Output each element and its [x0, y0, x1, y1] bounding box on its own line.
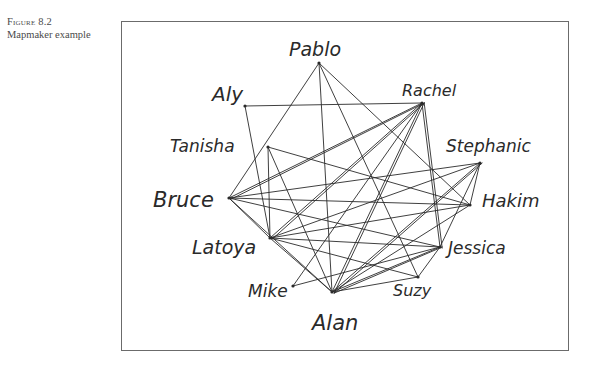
edge-rachel-mike: [293, 103, 422, 286]
node-stephanie: [478, 161, 481, 164]
edge-rachel-alan: [334, 103, 424, 293]
node-label-alan: Alan: [310, 311, 358, 335]
node-label-stephanie: Stephanic: [446, 136, 531, 156]
edge-stephanie-alan: [334, 163, 482, 293]
edge-aly-rachel: [245, 103, 422, 106]
node-label-pablo: Pablo: [289, 38, 341, 60]
node-label-bruce: Bruce: [153, 188, 214, 212]
node-tanisha: [266, 145, 269, 148]
node-label-rachel: Rachel: [402, 81, 457, 100]
edge-rachel-latoya: [272, 103, 424, 239]
node-label-aly: Aly: [210, 82, 244, 106]
edge-stephanie-bruce: [229, 163, 480, 198]
node-label-hakim: Hakim: [482, 190, 540, 211]
edge-bruce-jessica: [229, 198, 440, 247]
node-label-suzy: Suzy: [393, 281, 432, 300]
node-bruce: [227, 196, 230, 199]
node-label-latoya: Latoya: [192, 236, 256, 258]
node-latoya: [268, 236, 271, 239]
edge-pablo-alan: [319, 63, 332, 292]
node-label-mike: Mike: [248, 281, 288, 301]
node-hakim: [468, 203, 471, 206]
node-label-tanisha: Tanisha: [170, 136, 235, 156]
node-label-jessica: Jessica: [445, 238, 506, 258]
edge-latoya-jessica: [270, 238, 440, 247]
node-aly: [243, 104, 246, 107]
node-pablo: [317, 61, 320, 64]
edge-rachel-jessica: [424, 103, 442, 248]
node-mike: [291, 284, 294, 287]
node-suzy: [416, 275, 419, 278]
node-layer: PabloAlyRachelTanishaStephanicBruceHakim…: [153, 38, 540, 335]
node-jessica: [438, 245, 441, 248]
node-rachel: [420, 101, 423, 104]
node-alan: [330, 290, 333, 293]
edge-rachel-latoya: [270, 103, 422, 238]
edge-aly-latoya: [245, 106, 270, 238]
network-diagram: PabloAlyRachelTanishaStephanicBruceHakim…: [0, 0, 595, 373]
